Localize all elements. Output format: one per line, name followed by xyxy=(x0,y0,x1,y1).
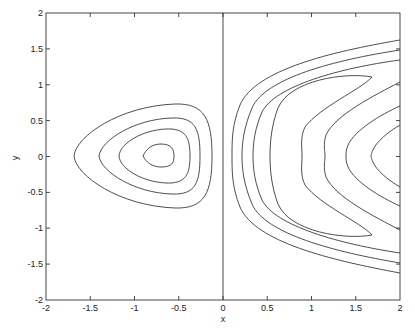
svg-text:2: 2 xyxy=(397,303,402,313)
svg-text:-1: -1 xyxy=(35,223,43,233)
svg-text:2: 2 xyxy=(38,8,43,18)
x-axis-label: x xyxy=(221,314,226,324)
left-contours xyxy=(74,104,212,208)
contour-plot: -2 -1.5 -1 -0.5 0 0.5 1 1.5 2 2 1.5 1 0.… xyxy=(0,0,415,334)
svg-text:-1.5: -1.5 xyxy=(82,303,98,313)
svg-text:-1: -1 xyxy=(130,303,138,313)
svg-text:0.5: 0.5 xyxy=(261,303,274,313)
svg-text:1: 1 xyxy=(38,80,43,90)
svg-text:-2: -2 xyxy=(35,295,43,305)
svg-text:-1.5: -1.5 xyxy=(27,259,43,269)
svg-text:1.5: 1.5 xyxy=(30,44,43,54)
svg-text:1.5: 1.5 xyxy=(349,303,362,313)
x-tick-labels: -2 -1.5 -1 -0.5 0 0.5 1 1.5 2 xyxy=(42,303,403,313)
svg-text:0: 0 xyxy=(220,303,225,313)
right-contours xyxy=(232,40,400,273)
svg-text:0.5: 0.5 xyxy=(30,116,43,126)
svg-text:-0.5: -0.5 xyxy=(171,303,187,313)
svg-text:-0.5: -0.5 xyxy=(27,187,43,197)
y-tick-labels: 2 1.5 1 0.5 0 -0.5 -1 -1.5 -2 xyxy=(27,8,43,305)
svg-text:1: 1 xyxy=(309,303,314,313)
svg-text:-2: -2 xyxy=(42,303,50,313)
y-axis-label: y xyxy=(10,155,20,160)
svg-text:0: 0 xyxy=(38,152,43,162)
